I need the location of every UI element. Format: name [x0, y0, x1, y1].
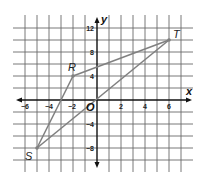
coordinate-plane-figure: x y O −6 −4 −2 2 4 6 12 8 4 −4 −8 R S T [0, 0, 202, 185]
y-axis-label: y [100, 13, 108, 25]
x-tick-label: −4 [45, 103, 53, 110]
x-tick-label: 2 [119, 103, 123, 110]
point-t [167, 38, 171, 42]
segment-st [37, 40, 169, 148]
y-axis-up-arrow-icon [95, 17, 100, 23]
y-tick-label: 12 [86, 25, 94, 32]
x-axis-label: x [185, 85, 193, 97]
x-axis-right-arrow-icon [186, 98, 192, 103]
point-t-label: T [173, 28, 181, 40]
triangle-rst [37, 40, 169, 148]
x-axis-left-arrow-icon [16, 98, 22, 103]
point-s-label: S [25, 150, 33, 162]
origin-label: O [86, 101, 95, 113]
x-tick-label: 4 [143, 103, 147, 110]
y-tick-label: −8 [86, 145, 94, 152]
point-s [35, 146, 39, 150]
x-tick-label: −2 [68, 103, 76, 110]
y-tick-label: 4 [90, 73, 94, 80]
point-r [71, 74, 75, 78]
x-tick-label: −6 [21, 103, 29, 110]
x-tick-label: 6 [167, 103, 171, 110]
y-axis-down-arrow-icon [95, 162, 100, 168]
y-tick-label: 8 [90, 49, 94, 56]
y-tick-label: −4 [86, 121, 94, 128]
x-axis [16, 98, 192, 103]
point-r-label: R [68, 61, 76, 73]
coordinate-plane-svg: x y O −6 −4 −2 2 4 6 12 8 4 −4 −8 R S T [0, 0, 202, 185]
